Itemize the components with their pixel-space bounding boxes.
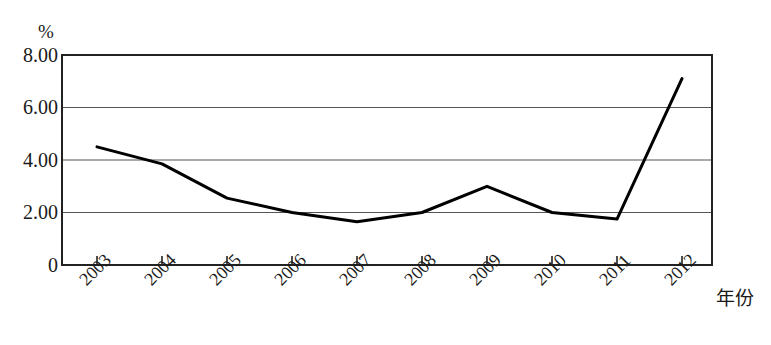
x-tick-label-2008: 2008 [401,251,439,289]
x-tick-label-2003: 2003 [76,251,114,289]
x-axis-title: 年份 [716,289,754,308]
x-tick-label-2005: 2005 [206,251,244,289]
x-tick-label-2012: 2012 [661,251,699,289]
x-axis-tick-labels: 2003 2004 2005 2006 2007 2008 2009 2010 … [0,0,771,345]
x-tick-label-2009: 2009 [466,251,504,289]
x-tick-label-2007: 2007 [336,251,374,289]
x-tick-label-2006: 2006 [271,251,309,289]
x-tick-label-2011: 2011 [596,251,634,289]
x-tick-label-2004: 2004 [141,251,179,289]
line-chart-figure: % 8.00 6.00 4.00 2.00 0 [0,0,771,345]
x-tick-label-2010: 2010 [531,251,569,289]
